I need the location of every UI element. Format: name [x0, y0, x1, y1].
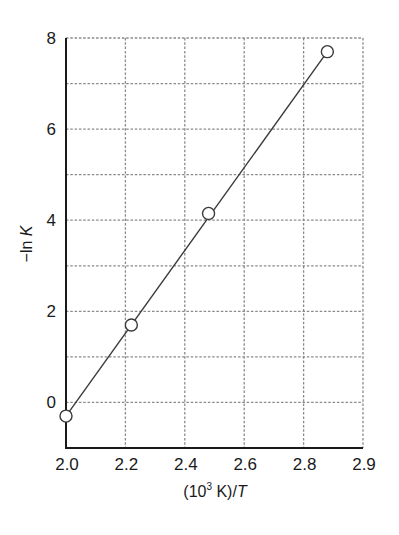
x-tick-label: 2.8 [293, 455, 317, 474]
y-tick-label: 6 [47, 120, 56, 139]
x-axis-label: (103 K)/T [183, 481, 248, 500]
data-point-marker [203, 207, 215, 219]
y-tick-label: 2 [47, 302, 56, 321]
chart: 02468 2.02.22.42.62.82.9 −ln K (103 K)/T [0, 0, 399, 535]
data-point-marker [125, 319, 137, 331]
data-series [60, 46, 333, 422]
grid-lines [66, 38, 363, 448]
y-tick-label: 4 [47, 211, 56, 230]
x-tick-label: 2.6 [233, 455, 257, 474]
x-tick-labels: 2.02.22.42.62.82.9 [55, 455, 376, 474]
x-tick-label: 2.0 [55, 455, 79, 474]
y-tick-label: 0 [47, 393, 56, 412]
x-tick-label: 2.4 [174, 455, 198, 474]
axes [65, 38, 363, 449]
fit-line [66, 52, 327, 416]
x-tick-label: 2.2 [115, 455, 139, 474]
data-point-marker [60, 410, 72, 422]
y-tick-labels: 02468 [47, 29, 56, 412]
data-point-marker [321, 46, 333, 58]
x-tick-label: 2.9 [352, 455, 376, 474]
y-axis-label: −ln K [18, 224, 35, 262]
y-tick-label: 8 [47, 29, 56, 48]
